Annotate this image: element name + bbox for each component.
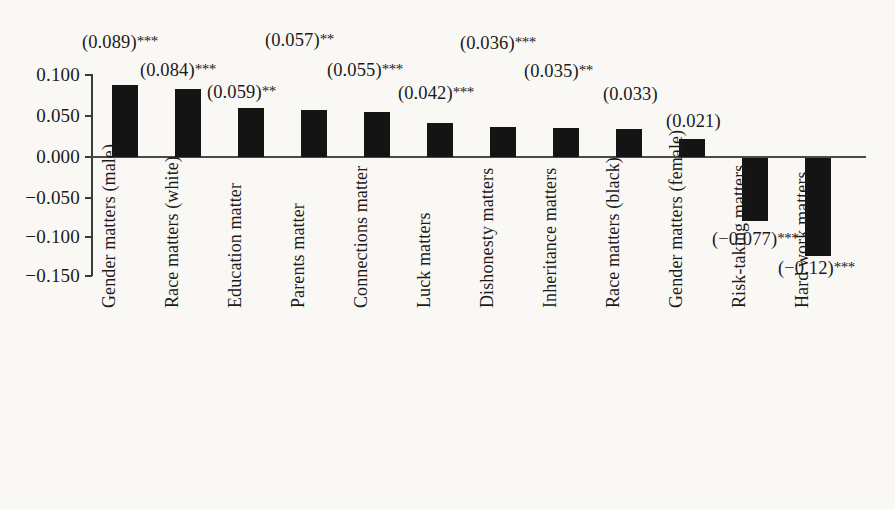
category-label-gender-matters-male: Gender matters (male) (100, 144, 118, 308)
value-label-dishonesty-matters: (0.036)*** (460, 32, 536, 53)
significance-stars-2: ** (262, 83, 276, 99)
value-label-parents-matter: (0.057)** (265, 29, 334, 50)
value-label-gender-matters-female: (0.021) (666, 110, 721, 131)
y-axis-label-4: −0.100 (6, 227, 80, 246)
y-axis-label-group-2: 0.000 (0, 147, 80, 166)
y-axis-line (91, 74, 93, 276)
value-label-inheritance-matters: (0.035)** (524, 60, 593, 81)
value-label-luck-matters: (0.042)*** (398, 82, 474, 103)
bar-race-matters-black (616, 129, 642, 157)
bar-connections-matter (364, 112, 390, 157)
value-text-7: (0.035) (524, 61, 579, 81)
y-tick-0 (85, 74, 92, 76)
category-label-inheritance-matters: Inheritance matters (541, 168, 559, 308)
significance-stars-1: *** (195, 61, 216, 77)
bar-inheritance-matters (553, 128, 579, 157)
category-label-education-matter: Education matter (226, 183, 244, 308)
value-text-5: (0.042) (398, 83, 453, 103)
value-text-8: (0.033) (603, 84, 658, 104)
bar-luck-matters (427, 123, 453, 157)
category-label-risk-taking-matters: Risk-taking matters (730, 165, 748, 308)
value-text-9: (0.021) (666, 111, 721, 131)
category-label-parents-matter: Parents matter (289, 203, 307, 308)
category-label-race-matters-black: Race matters (black) (604, 157, 622, 308)
y-axis-label-3: −0.050 (6, 188, 80, 207)
value-label-hard-work-matters: (−0.12)*** (778, 257, 855, 278)
value-text-2: (0.059) (207, 82, 262, 102)
significance-stars-6: *** (515, 34, 536, 50)
significance-stars-0: *** (137, 33, 158, 49)
bar-race-matters-white (175, 89, 201, 157)
significance-stars-3: ** (320, 31, 334, 47)
significance-stars-11: *** (834, 259, 855, 275)
y-tick-3 (85, 197, 92, 199)
y-axis-label-1: 0.050 (6, 106, 80, 125)
value-label-race-matters-black: (0.033) (603, 83, 658, 104)
value-label-race-matters-white: (0.084)*** (140, 59, 216, 80)
y-axis-label-group-5: −0.150 (0, 266, 80, 285)
significance-stars-5: *** (453, 84, 474, 100)
significance-stars-4: *** (382, 61, 403, 77)
category-label-dishonesty-matters: Dishonesty matters (478, 168, 496, 308)
y-axis-label-group-4: −0.100 (0, 227, 80, 246)
bar-dishonesty-matters (490, 127, 516, 157)
value-text-6: (0.036) (460, 33, 515, 53)
value-text-1: (0.084) (140, 60, 195, 80)
y-tick-5 (85, 275, 92, 277)
y-tick-1 (85, 115, 92, 117)
bar-education-matter (238, 108, 264, 157)
category-label-connections-matter: Connections matter (352, 166, 370, 308)
value-label-connections-matter: (0.055)*** (327, 59, 403, 80)
category-label-luck-matters: Luck matters (415, 212, 433, 308)
y-tick-4 (85, 236, 92, 238)
plot-area: 0.100 0.050 0.000 −0.050 −0.100 −0.150 (0, 0, 895, 509)
category-label-race-matters-white: Race matters (white) (163, 156, 181, 308)
significance-stars-7: ** (579, 62, 593, 78)
y-axis-label-group-3: −0.050 (0, 188, 80, 207)
value-text-0: (0.089) (82, 32, 137, 52)
value-label-education-matter: (0.059)** (207, 81, 276, 102)
value-text-4: (0.055) (327, 60, 382, 80)
y-axis-label-group-0: 0.100 (0, 65, 80, 84)
category-label-hard-work-matters: Hard work matters (793, 171, 811, 308)
category-label-gender-matters-female: Gender matters (female) (667, 130, 685, 308)
value-label-risk-taking-matters: (−0.077)*** (712, 228, 798, 249)
bar-parents-matter (301, 110, 327, 157)
bar-chart-figure: 0.100 0.050 0.000 −0.050 −0.100 −0.150 (0, 0, 895, 509)
y-axis-label-2: 0.000 (6, 147, 80, 166)
y-axis-label-0: 0.100 (6, 65, 80, 84)
y-axis-label-group-1: 0.050 (0, 106, 80, 125)
value-text-3: (0.057) (265, 30, 320, 50)
y-axis-label-5: −0.150 (6, 266, 80, 285)
value-label-gender-matters-male: (0.089)*** (82, 31, 158, 52)
